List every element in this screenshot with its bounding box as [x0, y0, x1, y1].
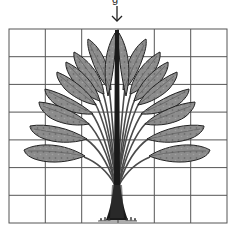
palm-grid-diagram: g — [0, 0, 234, 232]
palm-tree — [24, 30, 210, 221]
diagram-canvas — [0, 0, 234, 232]
top-label: g — [112, 0, 118, 5]
down-arrow-icon — [112, 6, 122, 21]
left-leaves — [24, 33, 116, 185]
right-leaves — [118, 33, 210, 185]
